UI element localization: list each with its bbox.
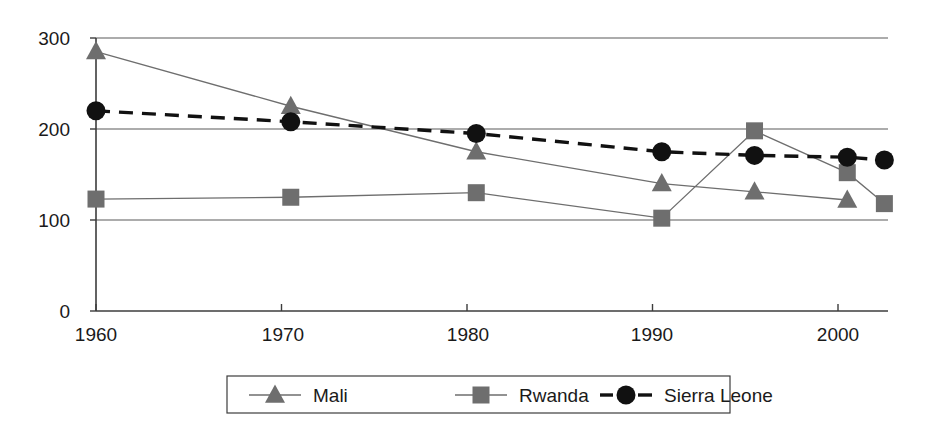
legend-item-rwanda[interactable]: Rwanda xyxy=(455,385,589,406)
x-tick-label: 1960 xyxy=(75,324,117,345)
data-point xyxy=(87,101,106,120)
data-point xyxy=(652,142,671,161)
chart-figure: 300 200 100 0 1960 1970 1980 1990 2000 M… xyxy=(0,0,925,432)
y-tick-label: 200 xyxy=(38,119,70,140)
data-point xyxy=(88,191,105,208)
x-tick-label: 2000 xyxy=(817,324,859,345)
x-tick-label: 1990 xyxy=(631,324,673,345)
data-point xyxy=(839,164,856,181)
square-icon xyxy=(473,387,490,404)
data-point xyxy=(281,112,300,131)
legend-label: Sierra Leone xyxy=(664,385,773,406)
y-tick-label: 100 xyxy=(38,210,70,231)
data-point xyxy=(467,124,486,143)
x-tick-label: 1970 xyxy=(262,324,304,345)
chart-legend: MaliRwandaSierra Leone xyxy=(227,376,773,413)
y-tick-label: 0 xyxy=(59,301,70,322)
y-tick-label: 300 xyxy=(38,28,70,49)
legend-label: Rwanda xyxy=(519,385,589,406)
chart-background xyxy=(0,0,925,432)
line-chart: 300 200 100 0 1960 1970 1980 1990 2000 M… xyxy=(0,0,925,432)
legend-item-sierra-leone[interactable]: Sierra Leone xyxy=(600,385,773,406)
data-point xyxy=(745,146,764,165)
legend-label: Mali xyxy=(313,385,348,406)
data-point xyxy=(876,195,893,212)
data-point xyxy=(468,184,485,201)
data-point xyxy=(653,210,670,227)
data-point xyxy=(746,122,763,139)
data-point xyxy=(282,189,299,206)
circle-icon xyxy=(617,386,636,405)
data-point xyxy=(838,148,857,167)
x-tick-label: 1980 xyxy=(447,324,489,345)
data-point xyxy=(875,150,894,169)
